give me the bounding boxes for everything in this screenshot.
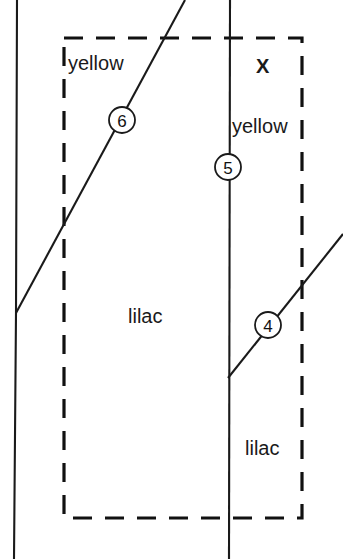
diagram-canvas: yellow X yellow lilac lilac 6 5 4 [0, 0, 343, 559]
node-marker-5-label: 5 [223, 159, 232, 178]
node-marker-6-label: 6 [117, 112, 126, 131]
center-vertical-link [229, 0, 230, 559]
node-marker-4-label: 4 [263, 317, 272, 336]
region-label-yellow-right: yellow [232, 115, 288, 137]
left-vertical-link [14, 0, 17, 559]
region-label-yellow-top-left: yellow [68, 52, 124, 74]
lower-diagonal-link [228, 234, 343, 378]
region-label-lilac-bottom-right: lilac [245, 437, 279, 459]
region-label-lilac-center: lilac [128, 305, 162, 327]
upper-diagonal-link [16, 0, 185, 313]
region-label-x: X [256, 55, 270, 77]
diagram-svg: yellow X yellow lilac lilac 6 5 4 [0, 0, 343, 559]
